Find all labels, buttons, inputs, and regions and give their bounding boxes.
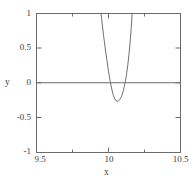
y-tick-label-neg-0-5: -0.5 <box>6 113 31 122</box>
x-tick-label-9-5: 9.5 <box>28 155 52 164</box>
y-tick-label-1: 1 <box>6 9 31 18</box>
y-tick-label-0-5: 0.5 <box>6 43 31 52</box>
y-axis-title: y <box>5 78 10 88</box>
chart-figure: 1 0.5 0 -0.5 -1 y 9.5 10 10.5 x <box>0 0 193 181</box>
x-axis-ticks <box>37 148 181 153</box>
y-axis-ticks <box>37 14 42 153</box>
x-axis-ticks-top <box>37 14 181 19</box>
y-axis-ticks-right <box>176 14 181 153</box>
x-tick-label-10-5: 10.5 <box>168 155 193 164</box>
data-series-curve <box>101 14 132 102</box>
x-tick-label-10: 10 <box>100 155 118 164</box>
x-axis-title: x <box>104 168 109 178</box>
